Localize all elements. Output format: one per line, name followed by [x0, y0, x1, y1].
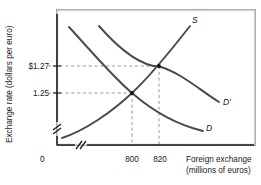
x-axis-title-line1: Foreign exchange [186, 155, 252, 164]
y-tick-label-127: $1.27 [29, 62, 50, 71]
equilibrium-point-new [157, 64, 161, 68]
origin-label: 0 [40, 155, 45, 164]
x-tick-label-800: 800 [125, 155, 139, 164]
y-tick-label-125: 1.25 [33, 89, 49, 98]
x-axis-title-line2: (millions of euros) [186, 166, 251, 175]
exchange-rate-chart-figure: $1.27 1.25 0 800 820 Foreign exchange (m… [0, 0, 261, 185]
supply-curve-label: S [192, 15, 198, 25]
y-axis-title: Exchange rate (dollars per euro) [5, 25, 14, 143]
supply-demand-chart: $1.27 1.25 0 800 820 Foreign exchange (m… [0, 0, 261, 185]
equilibrium-point-initial [130, 91, 134, 95]
plot-frame [57, 10, 256, 146]
demand-curve-prime-label: D′ [223, 97, 231, 107]
demand-curve-label: D [206, 123, 212, 133]
x-tick-label-820: 820 [153, 155, 167, 164]
